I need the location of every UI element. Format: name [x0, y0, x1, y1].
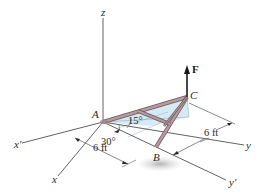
dimension-arrow	[173, 151, 179, 155]
y-prime-axis-label: y′	[228, 176, 237, 188]
force-F-label: F	[192, 63, 199, 75]
x-prime-axis-label: x′	[13, 138, 22, 150]
point-C-label: C	[190, 89, 198, 101]
y-axis	[103, 122, 244, 145]
force-arrow-head	[184, 65, 190, 74]
dimension-6ft-left: 6 ft	[93, 142, 107, 153]
ground-shadow	[136, 156, 184, 172]
dimension-arrow	[75, 138, 80, 142]
c-projection-line	[189, 103, 235, 124]
joint-A	[100, 120, 108, 124]
dimension-6ft-right: 6 ft	[204, 127, 218, 138]
z-axis-label: z	[100, 6, 106, 18]
y-axis-label: y	[245, 139, 251, 151]
x-prime-axis	[22, 122, 103, 143]
point-B-label: B	[153, 151, 160, 163]
statics-diagram: z x′ x y y′ A B C F 15° 30° 6 ft 6 ft	[0, 0, 264, 196]
angle-15-label: 15°	[128, 115, 143, 126]
dimension-arrow	[122, 161, 128, 164]
point-A-label: A	[91, 108, 99, 120]
dimension-arrow	[227, 123, 232, 126]
x-axis-label: x	[51, 173, 57, 185]
